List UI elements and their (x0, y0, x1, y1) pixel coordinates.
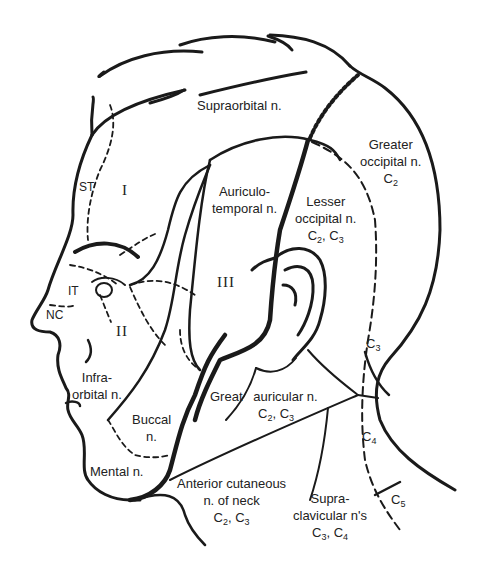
hair-outline (92, 35, 350, 135)
label-division-I: I (122, 182, 128, 199)
back-of-head-outline (350, 66, 455, 490)
label-line: Buccal (132, 411, 171, 428)
label-line: occipital n. (295, 210, 356, 227)
label-anterior-cutaneous: Anterior cutaneous n. of neck C2, C3 (177, 475, 286, 526)
label-line: Lesser (295, 193, 356, 210)
label-line: Greater (360, 136, 421, 153)
label-segment: C2 (360, 170, 421, 187)
label-division-II: II (116, 323, 128, 340)
label-line: temporal n. (212, 200, 277, 217)
auriculotemporal-outline (210, 137, 340, 160)
label-lesser-occipital: Lesser occipital n. C2, C3 (295, 193, 356, 244)
label-segment: C2, C3 (295, 227, 356, 244)
label-c4-dermatome: C4 (362, 428, 376, 445)
label-line: Great auricular n. (210, 388, 318, 405)
v2-v3-boundary (108, 165, 210, 420)
label-nasociliary: NC (46, 307, 63, 324)
trigeminal-cervical-divide (195, 140, 308, 420)
label-infraorbital: Infra- orbital n. (72, 369, 122, 403)
label-segment: C3, C4 (293, 524, 367, 541)
nostril (86, 340, 91, 362)
label-line: Infra- (72, 369, 122, 386)
label-line: Supra- (293, 490, 367, 507)
label-segment: C2, C3 (177, 509, 286, 526)
label-supratrochlear: ST (79, 179, 94, 196)
label-division-III: III (217, 274, 235, 291)
label-buccal: Buccal n. (132, 411, 171, 445)
label-infratrochlear: IT (68, 283, 79, 300)
label-auriculotemporal: Auriculo- temporal n. (212, 183, 277, 217)
nerve-distribution-figure: Supraorbital n. Greater occipital n. C2 … (0, 0, 487, 569)
label-line: Auriculo- (212, 183, 277, 200)
trigeminal-dashed-subdivisions (50, 105, 200, 457)
label-line: n. of neck (177, 492, 286, 509)
label-line: clavicular n's (293, 507, 367, 524)
ear-outline (252, 248, 325, 360)
label-great-auricular: Great auricular n. C2, C3 (210, 388, 318, 422)
label-line: Anterior cutaneous (177, 475, 286, 492)
label-greater-occipital: Greater occipital n. C2 (360, 136, 421, 187)
label-mental: Mental n. (90, 463, 143, 480)
label-line: n. (132, 428, 171, 445)
label-supraorbital: Supraorbital n. (197, 97, 282, 114)
eyebrow (75, 244, 138, 257)
label-c5-dermatome: C5 (391, 491, 405, 508)
label-segment: C2, C3 (210, 405, 318, 422)
vertex-dotted-divide (310, 75, 358, 138)
label-line: orbital n. (72, 386, 122, 403)
eye (96, 283, 112, 297)
label-supraclavicular: Supra- clavicular n's C3, C4 (293, 490, 367, 541)
label-line: occipital n. (360, 153, 421, 170)
label-c3-dermatome: C3 (366, 335, 380, 352)
